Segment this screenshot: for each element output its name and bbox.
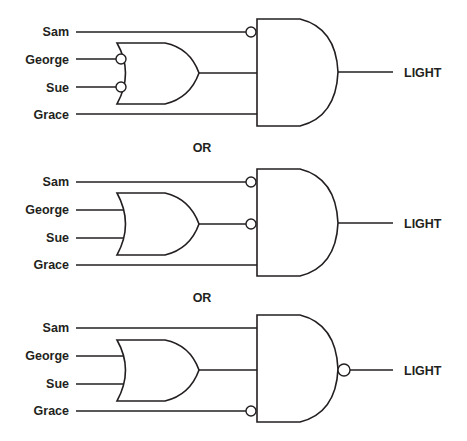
logic-diagram: Sam George Sue Grace LIGHT OR Sam George…: [0, 0, 467, 441]
not-bubble-sue: [116, 82, 126, 92]
circuit-3: Sam George Sue Grace LIGHT: [25, 315, 442, 422]
not-bubble-grace: [246, 406, 256, 416]
not-bubble-sam: [246, 177, 256, 187]
output-label-light: LIGHT: [404, 217, 442, 231]
not-bubble-sam: [246, 27, 256, 37]
and-gate: [257, 169, 338, 276]
not-bubble-or-output: [246, 219, 256, 229]
output-label-light: LIGHT: [404, 364, 442, 378]
output-label-light: LIGHT: [404, 66, 442, 80]
circuit-2: Sam George Sue Grace LIGHT: [25, 169, 442, 276]
and-gate: [257, 19, 338, 126]
input-label-george: George: [25, 349, 69, 363]
separator-or-2: OR: [193, 291, 212, 305]
input-label-sam: Sam: [43, 321, 69, 335]
input-label-grace: Grace: [34, 258, 69, 272]
separator-or-1: OR: [193, 141, 212, 155]
or-gate: [117, 340, 199, 401]
input-label-george: George: [25, 203, 69, 217]
input-label-sam: Sam: [43, 175, 69, 189]
input-label-george: George: [25, 53, 69, 67]
input-label-sue: Sue: [46, 231, 69, 245]
input-label-sue: Sue: [46, 81, 69, 95]
input-label-grace: Grace: [34, 404, 69, 418]
nand-gate: [257, 315, 338, 422]
input-label-grace: Grace: [34, 108, 69, 122]
not-bubble-george: [116, 54, 126, 64]
input-label-sue: Sue: [46, 377, 69, 391]
not-bubble-output: [338, 364, 350, 376]
input-label-sam: Sam: [43, 25, 69, 39]
circuit-1: Sam George Sue Grace LIGHT: [25, 19, 442, 126]
or-gate: [117, 43, 199, 104]
or-gate: [117, 193, 199, 255]
